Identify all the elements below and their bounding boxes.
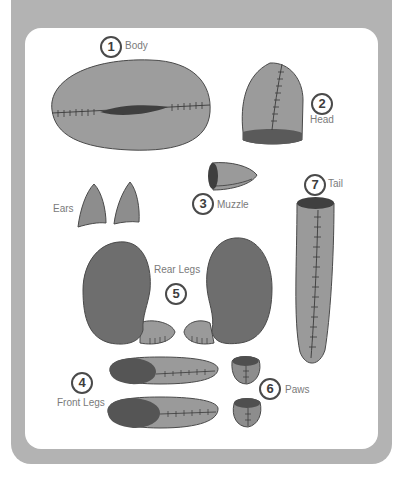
- body-piece: [52, 60, 210, 150]
- rear-leg-right: [184, 238, 272, 344]
- tail-piece: [296, 197, 334, 363]
- front-leg-bottom: [108, 397, 218, 428]
- part-number-head: 2: [311, 93, 333, 115]
- part-number-body: 1: [100, 36, 122, 58]
- muzzle-piece: [208, 163, 257, 190]
- part-number-muzzle: 3: [192, 193, 214, 215]
- part-number-paws: 6: [259, 378, 281, 400]
- paw-bottom: [233, 398, 261, 427]
- front-leg-top: [110, 357, 218, 384]
- part-label-rear-legs: Rear Legs: [154, 264, 200, 275]
- paw-top: [232, 356, 260, 384]
- head-piece: [242, 63, 303, 145]
- part-number-rear-legs: 5: [165, 283, 187, 305]
- pattern-pieces-illustration: [0, 0, 403, 483]
- part-number-tail: 7: [304, 174, 326, 196]
- part-label-ears: Ears: [53, 203, 74, 214]
- part-label-head: Head: [310, 114, 334, 125]
- part-label-tail: Tail: [328, 178, 343, 189]
- part-label-front-legs: Front Legs: [57, 397, 105, 408]
- part-label-muzzle: Muzzle: [217, 199, 249, 210]
- ears-pieces: [78, 182, 139, 227]
- part-label-body: Body: [125, 40, 148, 51]
- part-number-front-legs: 4: [71, 372, 93, 394]
- part-label-paws: Paws: [285, 384, 309, 395]
- rear-leg-left: [83, 242, 175, 344]
